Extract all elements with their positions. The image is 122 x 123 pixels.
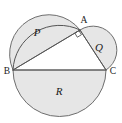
vertex-label-A: A	[81, 15, 88, 25]
region-label-Q: Q	[95, 41, 103, 53]
vertex-label-B: B	[4, 66, 10, 76]
geometry-figure: P Q R A B C	[0, 0, 122, 123]
region-P-shape	[10, 15, 80, 70]
region-label-R: R	[55, 85, 63, 97]
vertex-label-C: C	[110, 66, 116, 76]
region-label-P: P	[33, 26, 41, 38]
geometry-canvas: P Q R A B C	[0, 0, 122, 123]
